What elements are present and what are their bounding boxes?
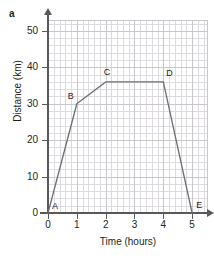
y-tick-label: 20: [27, 135, 38, 145]
x-tick-label: 5: [184, 220, 200, 230]
x-axis-arrow-icon: [207, 209, 214, 217]
plot-area: [48, 20, 208, 213]
point-label-a: A: [52, 202, 58, 211]
y-tick-label: 50: [27, 26, 38, 36]
part-label: a: [9, 9, 15, 19]
y-tick-mark: [42, 31, 47, 32]
y-tick-label: 30: [27, 99, 38, 109]
point-label-c: C: [104, 68, 111, 77]
x-tick-label: 1: [69, 220, 85, 230]
y-axis-title: Distance (km): [13, 36, 23, 146]
y-tick-mark: [42, 140, 47, 141]
x-tick-label: 4: [155, 220, 171, 230]
point-label-d: D: [166, 69, 173, 78]
point-label-b: B: [68, 92, 74, 101]
distance-time-graph-figure: a 01020304050012345 ABCDE Distance (km) …: [0, 0, 214, 258]
y-tick-mark: [42, 177, 47, 178]
y-tick-mark: [42, 213, 47, 214]
x-axis-line: [40, 212, 208, 214]
x-axis-title: Time (hours): [48, 237, 208, 247]
y-axis-line: [47, 12, 49, 214]
y-tick-label: 40: [27, 62, 38, 72]
x-tick-label: 2: [98, 220, 114, 230]
y-tick-mark: [42, 104, 47, 105]
y-tick-mark: [42, 67, 47, 68]
x-tick-label: 3: [126, 220, 142, 230]
point-label-e: E: [196, 201, 202, 210]
x-tick-label: 0: [40, 220, 56, 230]
major-gridlines: [48, 20, 208, 213]
y-tick-label: 10: [27, 172, 38, 182]
y-axis-arrow-icon: [44, 8, 52, 15]
y-tick-label: 0: [32, 208, 38, 218]
